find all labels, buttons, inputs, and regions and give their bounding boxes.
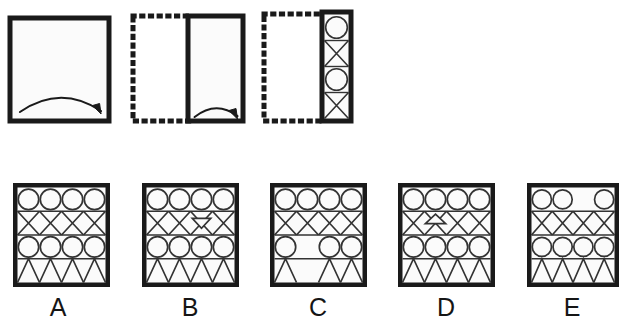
unfolded-square-panel [4,12,115,127]
folded-once-ghost-outline [133,16,191,121]
option-e[interactable] [524,180,622,290]
option-c-label: C [298,295,338,320]
folded-twice-punched-panel [258,6,357,127]
option-a-label: A [38,295,78,320]
option-d-label: D [426,295,466,320]
option-a[interactable] [10,180,113,290]
option-b-label: B [170,295,210,320]
folded-twice-punched-ghost-outline [264,14,325,121]
folded-once-paper [188,16,243,121]
folded-once-panel [127,10,249,127]
puzzle-canvas: ABCDE [0,0,630,325]
option-c[interactable] [267,180,370,290]
option-e-label: E [552,295,592,320]
option-b[interactable] [139,180,242,290]
option-d[interactable] [395,180,498,290]
